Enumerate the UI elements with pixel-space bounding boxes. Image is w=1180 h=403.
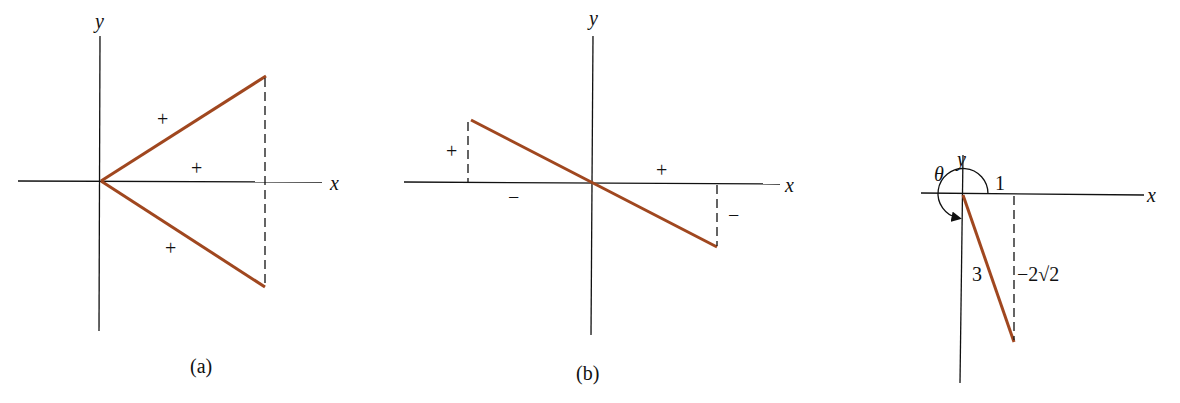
y-value-label: −2√2 [1017, 263, 1059, 285]
trig-figure: y x + + + (a) y x + − + − (b) y x θ 1 3 … [0, 0, 1180, 403]
panel-c: y x θ 1 3 −2√2 [921, 148, 1156, 383]
x-axis-label: x [329, 172, 339, 194]
x-axis-label: x [1146, 184, 1156, 206]
sign-base: + [191, 157, 202, 179]
sign-lower: + [165, 237, 176, 259]
sign-upper: + [157, 108, 168, 130]
hypotenuse-label: 3 [972, 263, 982, 285]
y-axis-label: y [587, 7, 598, 30]
sign-left-base: − [508, 186, 519, 208]
upper-segment [101, 76, 266, 181]
segment [963, 195, 1014, 342]
theta-label: θ [934, 163, 944, 185]
y-axis [960, 155, 963, 383]
lower-segment [101, 181, 265, 287]
sign-right-height: − [728, 204, 739, 226]
x-axis-label: x [784, 174, 794, 196]
y-axis-label: y [955, 148, 966, 171]
x-axis [921, 193, 1144, 195]
x-axis [18, 181, 322, 182]
y-axis-label: y [93, 10, 104, 33]
y-axis [591, 36, 593, 335]
caption-a: (a) [190, 355, 212, 378]
panel-b: y x + − + − (b) [404, 7, 794, 385]
caption-b: (b) [576, 362, 599, 385]
sign-right-base: + [656, 159, 667, 181]
y-axis [99, 36, 100, 331]
x-value-label: 1 [995, 172, 1005, 194]
panel-a: y x + + + (a) [18, 10, 339, 378]
sign-left-height: + [446, 140, 457, 162]
